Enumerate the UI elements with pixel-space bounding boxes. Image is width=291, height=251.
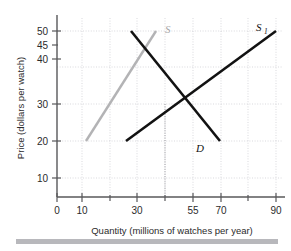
supply-demand-chart: 50 45 40 30 20 10 0 10 30 55 70 90 — [0, 0, 291, 251]
curve-label-supply-new-subscript: 1 — [264, 27, 268, 36]
x-tick-label-0: 0 — [54, 205, 60, 216]
x-tick-label-10: 10 — [76, 205, 88, 216]
footer-divider-bar — [16, 239, 278, 244]
y-tick-label-30: 30 — [37, 99, 49, 110]
x-tick-label-70: 70 — [215, 205, 227, 216]
y-tick-label-40: 40 — [37, 54, 49, 65]
y-axis-title: Price (dollars per watch) — [15, 57, 26, 159]
chart-svg: 50 45 40 30 20 10 0 10 30 55 70 90 — [0, 0, 291, 251]
x-tick-labels: 0 10 30 55 70 90 — [54, 205, 282, 216]
y-tick-label-45: 45 — [37, 40, 49, 51]
y-tick-label-20: 20 — [37, 136, 49, 147]
x-tick-label-90: 90 — [270, 205, 282, 216]
curve-demand — [131, 31, 220, 141]
curve-label-supply-new-text: S — [256, 21, 262, 33]
x-tick-label-55: 55 — [187, 205, 199, 216]
curve-label-demand: D — [195, 142, 204, 154]
x-tick-label-30: 30 — [131, 205, 143, 216]
y-tick-label-10: 10 — [37, 173, 49, 184]
y-tick-label-50: 50 — [37, 26, 49, 37]
x-axis-title: Quantity (millions of watches per year) — [91, 225, 253, 236]
axes — [57, 15, 285, 197]
curve-label-supply-new: S 1 — [256, 21, 268, 36]
curve-label-supply-original: S — [165, 23, 171, 35]
curve-supply-new — [126, 31, 276, 141]
y-tick-labels: 50 45 40 30 20 10 — [37, 26, 49, 184]
